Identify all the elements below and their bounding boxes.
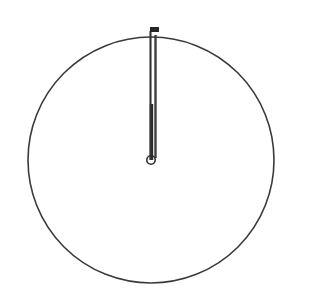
tick-mark-12-icon <box>150 27 159 32</box>
clock-drawing <box>0 0 335 307</box>
background <box>0 0 335 307</box>
clock-figure-canvas: Analog clock showing 12:00 <box>0 0 335 307</box>
